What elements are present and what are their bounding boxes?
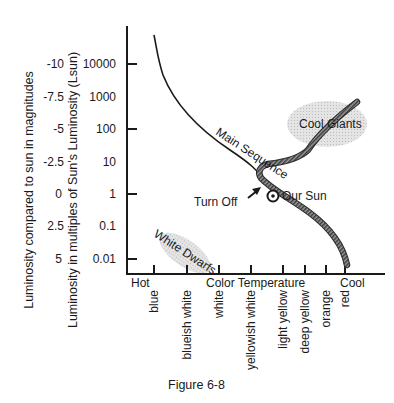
svg-text:-7.5: -7.5 [43, 90, 64, 104]
main-sequence-line [154, 35, 268, 184]
svg-text:light yellow: light yellow [276, 290, 290, 349]
x-axis-cool-label: Cool [340, 276, 365, 290]
svg-text:-2.5: -2.5 [43, 155, 64, 169]
y-axis-luminosity-title: Luminosity in multiples of Sun's Luminos… [66, 52, 80, 328]
svg-text:10: 10 [103, 155, 117, 169]
figure-caption: Figure 6-8 [168, 378, 225, 392]
x-axis-hot-label: Hot [131, 276, 150, 290]
svg-text:10000: 10000 [83, 57, 117, 71]
magnitude-tick-labels: -10 -7.5 -5 -2.5 0 2.5 5 [43, 57, 64, 266]
svg-text:blueish white: blueish white [180, 290, 194, 360]
cool-giants-label: Cool Giants [299, 117, 362, 131]
svg-text:5: 5 [55, 252, 62, 266]
svg-text:100: 100 [96, 122, 116, 136]
y-ticks [127, 64, 137, 259]
svg-text:yellowish white: yellowish white [244, 290, 258, 370]
svg-text:-10: -10 [47, 57, 65, 71]
svg-text:1000: 1000 [89, 90, 116, 104]
turn-off-label: Turn Off [194, 195, 238, 209]
svg-text:-5: -5 [53, 122, 64, 136]
svg-text:0.01: 0.01 [93, 252, 117, 266]
luminosity-tick-labels: 10000 1000 100 10 1 0.1 0.01 [83, 57, 117, 266]
svg-text:red: red [338, 290, 352, 307]
main-sequence-label: Main Sequence [213, 125, 291, 182]
svg-text:2.5: 2.5 [47, 219, 64, 233]
color-tick-labels: blue blueish white white yellowish white… [147, 290, 352, 370]
svg-text:orange: orange [319, 290, 333, 328]
sun-symbol-icon [268, 191, 279, 202]
svg-text:0.1: 0.1 [99, 219, 116, 233]
svg-text:1: 1 [109, 187, 116, 201]
y-axis-magnitude-title: Luminosity compared to sun in magnitudes [22, 71, 36, 309]
svg-text:0: 0 [55, 187, 62, 201]
svg-text:blue: blue [147, 290, 161, 313]
x-axis-title: Color Temperature [206, 276, 305, 290]
svg-text:deep yellow: deep yellow [298, 290, 312, 354]
white-dwarfs-label: White Dwarfs [151, 227, 218, 278]
hr-diagram: -10 -7.5 -5 -2.5 0 2.5 5 10000 1000 100 … [0, 0, 394, 403]
turn-off-arrow-icon [248, 187, 261, 198]
our-sun-label: Our Sun [282, 189, 327, 203]
svg-text:white: white [212, 290, 226, 319]
